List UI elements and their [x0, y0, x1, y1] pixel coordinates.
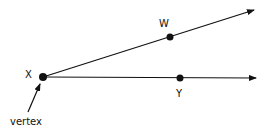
point-w: [167, 34, 174, 41]
vertex-pointer-arrow: [28, 84, 40, 112]
angle-diagram: [0, 0, 269, 134]
label-vertex: vertex: [10, 117, 42, 127]
ray-xw: [43, 10, 254, 77]
point-y: [177, 75, 184, 82]
point-x: [39, 73, 47, 81]
label-x: X: [25, 70, 32, 80]
label-w: W: [159, 19, 169, 29]
label-y: Y: [176, 89, 182, 99]
ray-xy: [43, 77, 256, 78]
